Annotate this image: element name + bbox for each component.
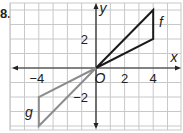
- origin-label: O: [95, 70, 106, 86]
- coordinate-plane: xyO−4242−2fg: [0, 0, 183, 133]
- x-axis-left-arrow-icon: [12, 66, 18, 71]
- x-axis-label: x: [170, 49, 179, 65]
- label-f: f: [159, 14, 165, 30]
- x-tick-label: 2: [121, 71, 128, 86]
- y-tick-label: −2: [73, 90, 88, 105]
- axes: [12, 3, 181, 129]
- y-axis-up-arrow-icon: [94, 3, 99, 9]
- y-axis-label: y: [99, 0, 108, 16]
- y-tick-label: 2: [81, 32, 88, 47]
- x-tick-label: 4: [150, 71, 157, 86]
- label-g: g: [25, 104, 33, 120]
- x-axis-right-arrow-icon: [175, 66, 181, 71]
- x-tick-label: −4: [29, 71, 44, 86]
- axis-labels: xyO−4242−2fg: [25, 0, 178, 120]
